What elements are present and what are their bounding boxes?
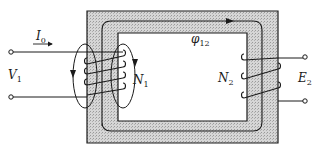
primary-terminal-top [9,50,13,54]
mutual-flux-path [102,21,262,131]
secondary-terminal-top [303,55,307,59]
secondary-terminal-bottom [303,99,307,103]
label-primary-voltage: V1 [8,68,22,84]
transformer-diagram: I0 V1 N1 φ12 N2 E2 [0,0,320,151]
label-primary-turns: N1 [132,73,149,89]
label-mutual-flux: φ12 [191,32,210,48]
label-secondary-emf: E2 [297,71,312,87]
label-current: I0 [35,29,46,45]
leakage-arrow-right-icon [132,59,138,67]
leakage-arrow-left-icon [70,70,76,78]
primary-terminal-bottom [9,95,13,99]
label-secondary-turns: N2 [217,71,234,87]
